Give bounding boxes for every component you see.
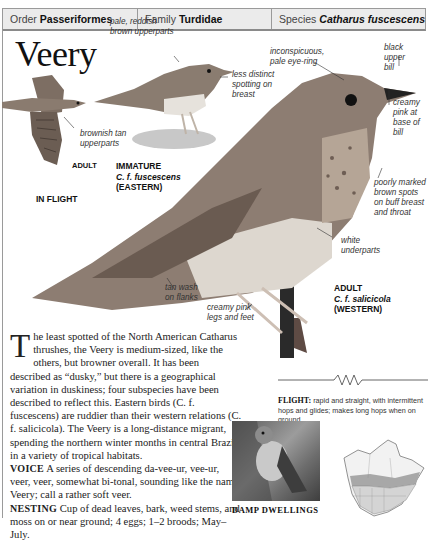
annotation-line: tan wash [165,283,198,293]
habitat-photo [232,421,320,501]
annotation-line: black upper [384,43,426,63]
annotation-line: underparts [341,246,380,256]
caption-flight-adult: ADULT [72,161,97,172]
annotation-breast-spots: poorly marked brown spots on buff breast… [374,178,426,218]
annotation-line: pale, reddish [110,17,174,27]
annotation-bill-base: creamy pink at base of bill [393,98,420,138]
caption-region: (WESTERN) [334,304,391,315]
annotation-line: legs and feet [207,313,254,323]
annotation-immature-upperparts: pale, reddish brown upperparts [110,17,174,37]
annotation-upper-bill: black upper bill [384,43,426,73]
annotation-line: pale eye-ring [270,57,324,67]
annotation-line: creamy pink [207,303,254,313]
annotation-line: on flanks [165,293,198,303]
caption-title: ADULT [334,283,362,293]
annotation-line: spotting on [232,80,274,90]
nesting-label: NESTING [10,503,57,514]
annotation-line: less distinct [232,70,274,80]
caption-in-flight: IN FLIGHT [36,194,78,205]
flight-pattern-icon [278,372,428,388]
annotation-line: on buff breast [374,198,426,208]
annotation-immature-breast: less distinct spotting on breast [232,70,274,100]
annotation-line: inconspicuous, [270,47,324,57]
annotation-line: upperparts [80,139,126,149]
annotation-line: and throat [374,208,426,218]
perched-bird-photo [232,421,320,501]
annotation-line: white [341,236,380,246]
caption-adult: ADULT C. f. salicicola (WESTERN) [334,283,391,315]
field-guide-page: Order Passeriformes Family Turdidae Spec… [2,0,426,518]
intro-paragraph: he least spotted of the North American C… [10,331,241,461]
annotation-line: base of [393,118,420,128]
annotation-line: creamy [393,98,420,108]
range-map-icon [340,438,426,518]
annotation-line: brownish tan [80,129,126,139]
annotation-eye-ring: inconspicuous, pale eye-ring [270,47,324,67]
annotation-legs: creamy pink legs and feet [207,303,254,323]
voice-text: A series of descending da-vee-ur, vee-ur… [10,463,239,500]
annotation-underparts: white underparts [341,236,380,256]
photo-caption: DAMP DWELLINGS [232,505,319,515]
annotation-flight-upperparts: brownish tan upperparts [80,129,126,149]
annotation-line: bill [384,63,426,73]
flight-label: FLIGHT: [278,396,311,405]
voice-label: VOICE [10,463,44,474]
caption-scientific-name: C. f. fuscescens [116,172,181,183]
caption-title: IMMATURE [116,161,161,171]
caption-region: (EASTERN) [116,182,181,193]
annotation-line: pink at [393,108,420,118]
annotation-line: brown upperparts [110,27,174,37]
annotation-line: breast [232,90,274,100]
caption-immature: IMMATURE C. f. fuscescens (EASTERN) [116,161,181,193]
annotation-line: brown spots [374,188,426,198]
annotation-line: poorly marked [374,178,426,188]
annotation-line: bill [393,128,420,138]
species-description: T he least spotted of the North American… [10,330,242,541]
drop-cap: T [10,333,30,359]
annotation-flanks: tan wash on flanks [165,283,198,303]
caption-scientific-name: C. f. salicicola [334,294,391,305]
